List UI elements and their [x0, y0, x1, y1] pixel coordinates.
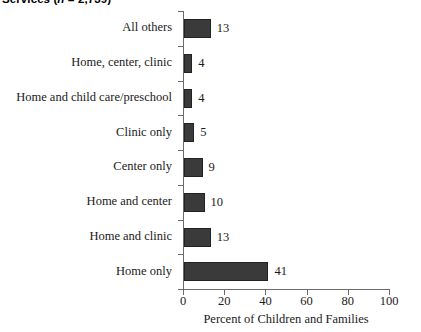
bar	[184, 89, 192, 108]
y-axis-category-label: Home only	[116, 265, 172, 278]
bar-row: 41	[184, 254, 390, 289]
y-axis-category-label: Home and child care/preschool	[16, 91, 172, 104]
x-axis-line	[183, 289, 390, 290]
x-axis-tick-label: 60	[300, 294, 313, 308]
bar	[184, 19, 211, 38]
y-axis-category-label: Home and clinic	[89, 230, 172, 243]
bar-value-label: 4	[198, 89, 204, 108]
y-axis-category-label: All others	[122, 21, 172, 34]
bar-value-label: 4	[198, 54, 204, 73]
y-axis-tick	[178, 115, 183, 116]
y-axis-category-label: Clinic only	[116, 126, 172, 139]
y-axis-tick	[178, 81, 183, 82]
bar-row: 5	[184, 115, 390, 150]
bar-row: 4	[184, 46, 390, 81]
x-axis-tick-label: 0	[180, 294, 186, 308]
chart-title-prefix: Services (	[2, 0, 57, 5]
y-axis-category-label: Center only	[113, 160, 172, 173]
x-axis-tick-label: 20	[218, 294, 231, 308]
bar-value-label: 9	[209, 158, 215, 177]
y-axis-category-label: Home, center, clinic	[71, 56, 172, 69]
bar-row: 13	[184, 220, 390, 255]
y-axis-tick	[178, 11, 183, 12]
bar-row: 13	[184, 11, 390, 46]
bar	[184, 262, 268, 281]
y-axis-tick	[178, 185, 183, 186]
bar-row: 4	[184, 81, 390, 116]
y-axis-category-label: Home and center	[87, 195, 172, 208]
bar-value-label: 41	[274, 262, 287, 281]
chart-title: Services (n = 2,739)	[2, 0, 111, 5]
bar	[184, 123, 194, 142]
x-axis-tick-label: 80	[342, 294, 355, 308]
bar	[184, 193, 205, 212]
bar	[184, 228, 211, 247]
chart-title-suffix: = 2,739)	[64, 0, 111, 5]
x-axis-tick-label: 40	[259, 294, 272, 308]
x-axis-tick-label: 100	[380, 294, 399, 308]
bar-value-label: 13	[217, 228, 230, 247]
bar-value-label: 13	[217, 19, 230, 38]
x-axis-tick-labels: 020406080100	[183, 294, 393, 310]
bar-value-label: 10	[211, 193, 224, 212]
y-axis-tick	[178, 220, 183, 221]
y-axis-tick	[178, 46, 183, 47]
bar	[184, 54, 192, 73]
y-axis-category-labels: All othersHome, center, clinicHome and c…	[0, 11, 178, 289]
bar	[184, 158, 203, 177]
y-axis-tick	[178, 254, 183, 255]
y-axis-tick	[178, 150, 183, 151]
bar-row: 10	[184, 185, 390, 220]
plot-area: 134459101341	[183, 11, 389, 289]
bar-value-label: 5	[200, 123, 206, 142]
bar-chart-figure: Services (n = 2,739) All othersHome, cen…	[0, 0, 421, 332]
bar-row: 9	[184, 150, 390, 185]
x-axis-title: Percent of Children and Families	[183, 312, 389, 327]
